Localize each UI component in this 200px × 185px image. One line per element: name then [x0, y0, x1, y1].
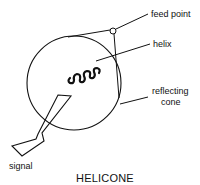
reflecting-cone-leader	[120, 97, 148, 104]
label-cone: cone	[161, 97, 181, 107]
feed-point-marker	[110, 28, 116, 34]
feed-point-leader	[116, 14, 148, 29]
helix-coil	[69, 68, 100, 83]
label-helix: helix	[153, 39, 172, 49]
label-signal: signal	[9, 161, 33, 171]
cone-edge-top	[68, 30, 110, 37]
label-feed-point: feed point	[151, 9, 191, 19]
label-reflecting: reflecting	[152, 86, 189, 96]
signal-arrow	[12, 95, 71, 156]
diagram-title: HELICONE	[76, 172, 134, 184]
